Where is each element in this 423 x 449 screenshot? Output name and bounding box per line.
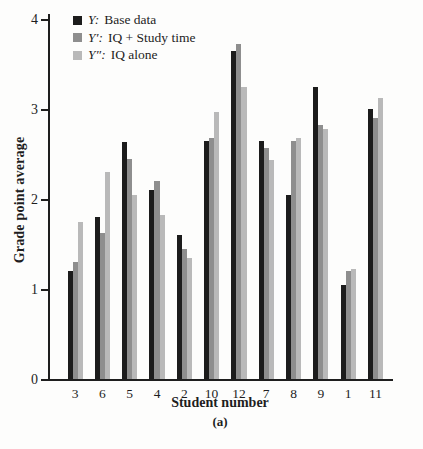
bar-iq_alone-student-6 [105, 172, 110, 379]
y-tick-label-0: 0 [16, 372, 38, 388]
bar-group-student-12 [231, 44, 246, 379]
bar-iq_alone-student-11 [378, 98, 383, 379]
bar-iq_alone-student-2 [187, 258, 192, 380]
bar-iq_alone-student-5 [132, 195, 137, 380]
bar-iq_alone-student-7 [269, 160, 274, 379]
y-tick-2 [41, 199, 48, 200]
bar-group-student-11 [368, 98, 383, 379]
bar-iq_alone-student-9 [323, 129, 328, 379]
bar-group-student-7 [259, 141, 274, 380]
bar-group-student-9 [313, 87, 328, 380]
bar-group-student-8 [286, 138, 301, 379]
x-axis-line [48, 379, 393, 381]
bar-iq_alone-student-8 [296, 138, 301, 379]
bar-group-student-2 [177, 235, 192, 379]
y-axis-title: Grade point average [12, 120, 28, 280]
y-tick-label-3: 3 [16, 102, 38, 118]
y-axis-line [48, 14, 50, 380]
bar-group-student-6 [95, 172, 110, 379]
bar-group-student-5 [122, 142, 137, 379]
figure-caption: (a) [48, 414, 392, 430]
bar-group-student-10 [204, 112, 219, 379]
plot-area: 01234365421012789111 [48, 20, 392, 380]
y-tick-label-4: 4 [16, 12, 38, 28]
y-tick-1 [41, 289, 48, 290]
bar-group-student-4 [149, 181, 164, 379]
bar-iq_alone-student-12 [241, 87, 246, 380]
bar-iq_alone-student-10 [214, 112, 219, 379]
bar-group-student-1 [341, 269, 356, 379]
y-tick-4 [41, 19, 48, 20]
y-tick-3 [41, 109, 48, 110]
bar-iq_alone-student-3 [78, 222, 83, 380]
bar-group-student-3 [68, 222, 83, 380]
bar-iq_alone-student-1 [351, 269, 356, 379]
y-tick-label-1: 1 [16, 282, 38, 298]
bar-iq_alone-student-4 [160, 215, 165, 379]
figure: Y: Base data Y′: IQ + Study time Y″: IQ … [0, 0, 423, 449]
x-axis-title: Student number [48, 395, 392, 411]
y-tick-0 [41, 379, 48, 380]
